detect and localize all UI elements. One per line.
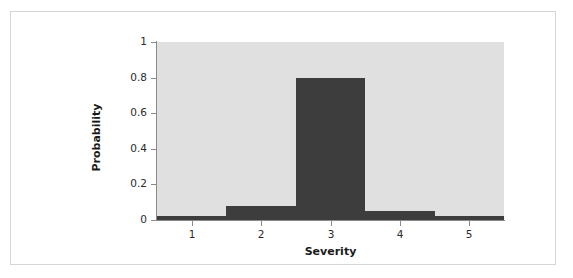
x-tick-label: 5	[449, 228, 489, 241]
figure-frame-border: 00.20.40.60.81 12345 Severity Probabilit…	[10, 11, 556, 265]
y-tick-label: 0.2	[130, 178, 147, 189]
x-tick-mark	[400, 221, 401, 226]
x-tick-mark	[469, 221, 470, 226]
y-tick-mark	[151, 113, 156, 114]
y-tick-mark	[151, 220, 156, 221]
y-axis-line	[156, 41, 157, 221]
x-tick-label-wrap: 5	[449, 228, 489, 242]
y-tick-mark	[151, 184, 156, 185]
y-tick-label-wrap: 0.4	[107, 143, 147, 155]
plot-area	[157, 42, 504, 220]
x-tick-mark	[261, 221, 262, 226]
y-tick-label: 0	[140, 214, 147, 225]
y-axis-title: Probability	[90, 48, 103, 228]
chart-figure: 00.20.40.60.81 12345 Severity Probabilit…	[0, 0, 573, 278]
x-tick-mark	[192, 221, 193, 226]
y-tick-label-wrap: 1	[107, 36, 147, 48]
y-tick-mark	[151, 149, 156, 150]
y-tick-label: 0.4	[130, 143, 147, 154]
y-tick-label-wrap: 0.2	[107, 178, 147, 190]
x-tick-label: 1	[172, 228, 212, 241]
bar-3	[296, 78, 365, 220]
bar-4	[365, 211, 434, 220]
x-tick-label: 3	[311, 228, 351, 241]
x-axis-title: Severity	[157, 245, 504, 258]
x-tick-label-wrap: 2	[241, 228, 281, 242]
y-tick-label: 0.8	[130, 72, 147, 83]
y-tick-label-wrap: 0	[107, 214, 147, 226]
y-tick-label: 1	[140, 36, 147, 47]
x-tick-label: 2	[241, 228, 281, 241]
x-tick-label: 4	[380, 228, 420, 241]
bar-2	[226, 206, 295, 220]
y-tick-label-wrap: 0.8	[107, 72, 147, 84]
y-tick-mark	[151, 78, 156, 79]
x-tick-label-wrap: 1	[172, 228, 212, 242]
y-tick-label-wrap: 0.6	[107, 107, 147, 119]
x-tick-label-wrap: 4	[380, 228, 420, 242]
y-tick-mark	[151, 42, 156, 43]
x-tick-mark	[331, 221, 332, 226]
bars-layer	[157, 42, 504, 220]
y-tick-label: 0.6	[130, 107, 147, 118]
x-tick-label-wrap: 3	[311, 228, 351, 242]
